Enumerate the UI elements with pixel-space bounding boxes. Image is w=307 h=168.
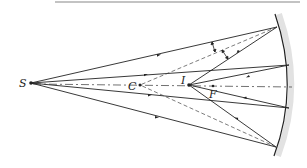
label-center: C bbox=[128, 80, 137, 93]
incident-arrows bbox=[144, 54, 161, 118]
mirror-shade bbox=[278, 14, 291, 156]
ray-diagram: S C I F bbox=[0, 0, 307, 168]
source-point bbox=[29, 81, 33, 85]
label-focus: F bbox=[208, 88, 217, 101]
angle-marks bbox=[211, 42, 228, 59]
image-point bbox=[187, 83, 191, 87]
reflected-arrows bbox=[235, 50, 251, 120]
label-source: S bbox=[19, 77, 27, 90]
focus-point bbox=[212, 85, 215, 88]
center-point bbox=[139, 84, 142, 87]
label-image: I bbox=[180, 74, 186, 87]
